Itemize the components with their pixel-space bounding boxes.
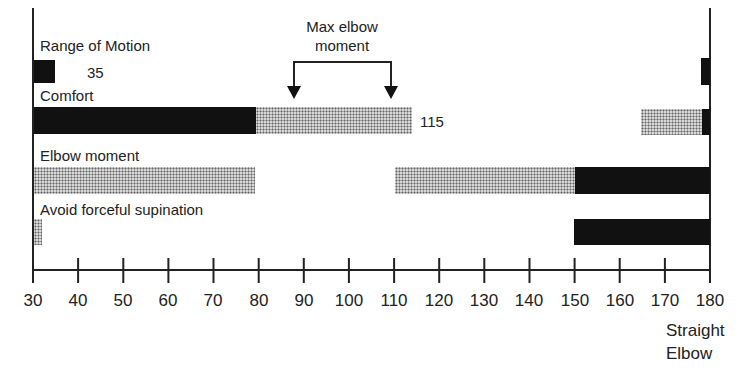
max-elbow-bracket	[294, 62, 391, 88]
x-tick-label: 160	[606, 291, 634, 311]
x-tick-label: 30	[24, 291, 43, 311]
arrow-down-icon	[287, 86, 301, 99]
annotation-max-elbow-line2: moment	[315, 37, 369, 54]
category-label-rom: Range of Motion	[40, 37, 150, 54]
x-tick-label: 130	[470, 291, 498, 311]
x-tick-label: 70	[204, 291, 223, 311]
bar-comfort-stippled	[256, 107, 412, 134]
elbow-angle-chart: Range of Motion 35 Comfort 115 Elbow mom…	[0, 0, 744, 391]
axes	[0, 0, 744, 391]
bar-elbow-left-stippled	[34, 167, 255, 194]
bar-comfort-dark	[34, 107, 256, 134]
bar-comfort-right-stippled	[641, 109, 702, 135]
straight-elbow-line2: Elbow	[666, 344, 712, 364]
annotation-max-elbow-line1: Max elbow	[306, 18, 378, 35]
x-tick-label: 170	[651, 291, 679, 311]
x-tick-label: 120	[425, 291, 453, 311]
x-tick-label: 80	[250, 291, 269, 311]
bar-elbow-right-stippled	[395, 167, 575, 194]
x-tick-label: 60	[159, 291, 178, 311]
x-tick-label: 140	[515, 291, 543, 311]
x-tick-label: 110	[380, 291, 407, 311]
arrow-down-icon	[384, 86, 398, 99]
bar-elbow-right-dark	[575, 167, 710, 194]
x-tick-label: 150	[561, 291, 589, 311]
bar-comfort-right-dark	[702, 109, 710, 135]
bar-supination-right-dark	[574, 219, 710, 245]
bar-rom-left	[34, 60, 55, 83]
bar-supination-left-stippled	[34, 219, 42, 245]
x-tick-label: 180	[696, 291, 724, 311]
category-label-supination: Avoid forceful supination	[40, 201, 203, 218]
category-label-elbow-moment: Elbow moment	[40, 147, 139, 164]
x-tick-label: 50	[114, 291, 133, 311]
bar-rom-right	[701, 58, 710, 85]
value-label-comfort: 115	[420, 113, 444, 130]
category-label-comfort: Comfort	[40, 87, 93, 104]
x-tick-label: 40	[69, 291, 88, 311]
x-tick-label: 90	[295, 291, 314, 311]
x-tick-label: 100	[335, 291, 363, 311]
straight-elbow-line1: Straight	[666, 321, 725, 341]
value-label-rom: 35	[87, 64, 104, 81]
